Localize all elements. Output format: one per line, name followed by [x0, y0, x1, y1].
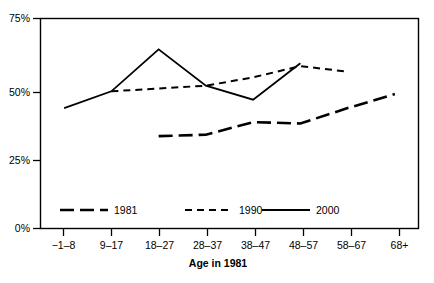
x-axis-title: Age in 1981 [189, 257, 248, 269]
y-axis-ticks [33, 19, 41, 229]
x-tick-label-5: 48–57 [289, 239, 318, 251]
legend-label-2000: 2000 [316, 204, 340, 216]
x-tick-label-4: 38–47 [241, 239, 270, 251]
line-chart: 75% 50% 25% 0% −1–8 9–17 18–27 28–37 38–… [0, 0, 434, 283]
y-tick-label-75: 75% [9, 12, 30, 24]
series-line-1981 [159, 94, 395, 136]
y-tick-label-50: 50% [9, 86, 30, 98]
x-tick-label-3: 28–37 [193, 239, 222, 251]
x-tick-label-1: 9–17 [100, 239, 124, 251]
x-axis-ticks [64, 229, 400, 237]
y-tick-label-0: 0% [15, 222, 30, 234]
chart-figure: 75% 50% 25% 0% −1–8 9–17 18–27 28–37 38–… [0, 0, 434, 283]
x-axis-labels: −1–8 9–17 18–27 28–37 38–47 48–57 58–67 … [52, 239, 409, 251]
series-line-2000 [64, 49, 300, 108]
y-axis-labels: 75% 50% 25% 0% [9, 12, 30, 234]
x-tick-label-0: −1–8 [52, 239, 76, 251]
plot-frame [41, 19, 419, 229]
chart-legend: 198119902000 [60, 204, 340, 216]
y-tick-label-25: 25% [9, 154, 30, 166]
x-tick-label-6: 58–67 [337, 239, 366, 251]
legend-label-1981: 1981 [114, 204, 138, 216]
series-line-1990 [111, 66, 347, 91]
x-tick-label-7: 68+ [391, 239, 409, 251]
legend-label-1990: 1990 [239, 204, 263, 216]
series-group [64, 49, 395, 136]
x-tick-label-2: 18–27 [145, 239, 174, 251]
